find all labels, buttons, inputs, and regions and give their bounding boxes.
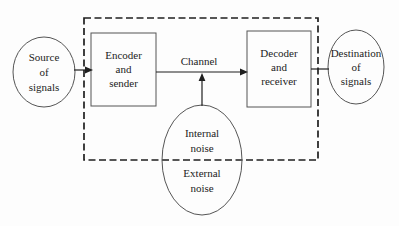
source-to-encoder-arrowhead <box>85 67 93 74</box>
encoder-box <box>91 33 156 106</box>
noise-to-channel-arrowhead <box>199 73 206 81</box>
system-boundary-dashed-box <box>84 18 318 160</box>
decoder-box <box>247 31 311 107</box>
source-ellipse <box>13 37 75 107</box>
diagram-canvas: Source of signals Encoder and sender Cha… <box>0 0 399 226</box>
diagram-shapes <box>0 0 399 226</box>
destination-ellipse <box>328 30 384 104</box>
